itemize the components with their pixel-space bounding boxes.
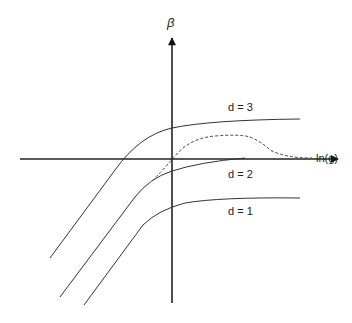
curve-d3 [50,119,300,258]
label-d3: d = 3 [228,101,253,113]
curve-d1 [84,198,300,305]
x-axis-label: ln(g) [316,152,338,164]
label-d2: d = 2 [228,168,253,180]
curve-d2 [60,158,245,297]
beta-function-diagram [0,0,352,323]
y-axis-label: β [167,15,174,30]
label-d1: d = 1 [228,205,253,217]
